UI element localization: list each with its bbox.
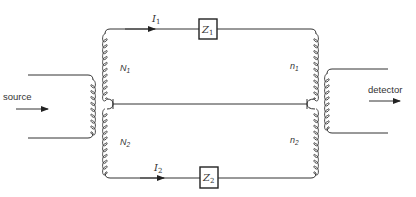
- winding-N2-label: N2: [120, 137, 131, 148]
- winding-N1-label: N1: [120, 63, 131, 74]
- circuit-svg: source detector I1 I2 Z1 Z2: [0, 0, 416, 197]
- right-center-tap: [307, 99, 315, 109]
- left-winding-N1: [103, 29, 110, 101]
- current-I2-label: I2: [153, 162, 162, 175]
- left-winding-N2: [103, 109, 110, 178]
- left-center-tap: [107, 99, 113, 109]
- winding-n1-label: n1: [290, 61, 299, 72]
- right-winding-n1: [314, 34, 319, 101]
- right-winding-n2: [314, 109, 319, 175]
- circuit-diagram: source detector I1 I2 Z1 Z2: [0, 0, 416, 197]
- source-label: source: [3, 91, 32, 102]
- source-primary-coil: [28, 75, 95, 138]
- current-I1-label: I1: [151, 13, 160, 26]
- detector-label: detector: [368, 84, 402, 95]
- winding-n2-label: n2: [290, 135, 299, 146]
